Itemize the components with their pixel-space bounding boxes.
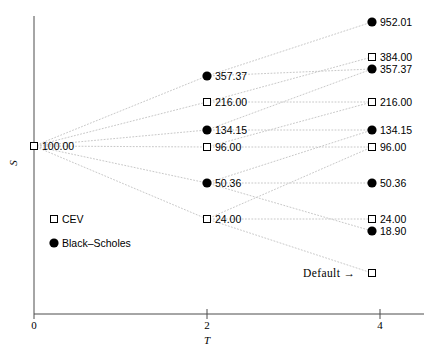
tree-node-marker-m2	[204, 99, 211, 106]
tree-edge	[34, 146, 207, 183]
node-label-m2: 216.00	[215, 97, 247, 108]
cev-vs-black-scholes-tree-chart: 100.00357.37216.00134.1596.0050.3624.009…	[0, 0, 433, 353]
node-label-r5: 134.15	[380, 125, 412, 136]
node-label-m1: 357.37	[215, 71, 247, 82]
tree-node-marker-r2	[369, 54, 376, 61]
node-label-root: 100.00	[42, 141, 74, 152]
default-annotation-label: Default →	[303, 267, 355, 279]
legend-marker-black-scholes	[49, 238, 58, 247]
x-tick-label-2: 2	[204, 319, 210, 331]
legend-markers-layer	[49, 216, 58, 248]
node-label-r8: 24.00	[380, 214, 406, 225]
node-label-m5: 50.36	[215, 178, 241, 189]
tree-node-marker-r5	[367, 125, 376, 134]
tree-node-marker-r8	[369, 216, 376, 223]
x-tick-label-4: 4	[377, 319, 383, 331]
node-label-m4: 96.00	[215, 142, 241, 153]
tree-edge	[207, 130, 372, 183]
tree-node-marker-r4	[369, 99, 376, 106]
node-label-r7: 50.36	[380, 178, 406, 189]
y-axis-title: S	[7, 160, 19, 166]
tree-node-marker-root	[31, 143, 38, 150]
tree-node-marker-r6	[369, 144, 376, 151]
node-label-r9: 18.90	[380, 226, 406, 237]
tree-node-marker-m3	[202, 125, 211, 134]
tree-node-marker-r1	[367, 17, 376, 26]
tree-node-marker-r9	[367, 226, 376, 235]
node-label-r2: 384.00	[380, 52, 412, 63]
node-label-r6: 96.00	[380, 142, 406, 153]
legend-marker-cev	[51, 216, 58, 223]
node-label-m3: 134.15	[215, 125, 247, 136]
axes-layer	[34, 16, 424, 319]
x-axis-title: T	[204, 334, 210, 346]
tree-edge	[207, 22, 372, 76]
node-label-m6: 24.00	[215, 214, 241, 225]
node-label-r3: 357.37	[380, 64, 412, 75]
tree-node-marker-r7	[367, 178, 376, 187]
node-label-r1: 952.01	[380, 17, 412, 28]
legend-label-black-scholes: Black–Scholes	[62, 238, 131, 249]
default-node-marker	[369, 270, 376, 277]
tree-node-marker-m4	[204, 144, 211, 151]
tree-edge	[34, 76, 207, 146]
node-label-r4: 216.00	[380, 97, 412, 108]
tree-node-marker-m6	[204, 216, 211, 223]
tree-node-marker-m1	[202, 71, 211, 80]
x-tick-label-0: 0	[31, 319, 37, 331]
annotation-marker-layer	[369, 270, 376, 277]
tree-node-marker-r3	[367, 64, 376, 73]
tree-node-marker-m5	[202, 178, 211, 187]
legend-label-cev: CEV	[62, 214, 84, 225]
tree-edge	[34, 146, 207, 219]
tree-edge	[207, 219, 372, 273]
